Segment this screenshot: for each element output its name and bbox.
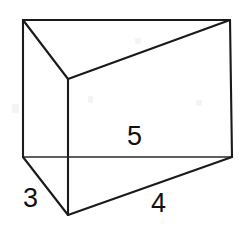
dimension-label-3: 3 (23, 185, 38, 212)
dimension-label-4: 4 (151, 190, 166, 217)
bottom-right-edge (68, 157, 232, 215)
top-right-edge (68, 20, 230, 79)
top-left-edge (23, 20, 68, 79)
prism-figure: 5 3 4 (0, 0, 247, 229)
dimension-label-5: 5 (127, 123, 142, 150)
right-vertical-edge (230, 20, 232, 157)
